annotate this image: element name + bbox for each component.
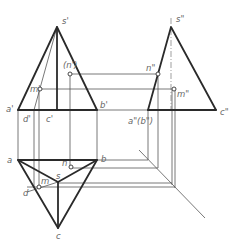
point-m-side xyxy=(172,87,176,91)
label-a-top: a xyxy=(7,155,12,165)
label-b-front: b' xyxy=(100,100,108,110)
label-c-top: c xyxy=(56,231,61,241)
point-n-side xyxy=(156,72,160,76)
label-s-front: s' xyxy=(62,16,69,26)
label-s-top: s xyxy=(56,171,61,181)
label-d-front: d' xyxy=(23,114,31,124)
label-c-front: c' xyxy=(46,114,53,124)
projection-drawing: s' (n') m' a' b' d' c' s" n" m" c" a"(b"… xyxy=(0,0,231,245)
label-n-side: n" xyxy=(146,63,155,73)
point-n-top xyxy=(69,165,73,169)
label-m-front: m' xyxy=(30,84,41,94)
point-n-front xyxy=(68,72,72,76)
labels: s' (n') m' a' b' d' c' s" n" m" c" a"(b"… xyxy=(6,14,229,241)
label-d-top: d xyxy=(23,188,29,198)
front-view xyxy=(18,27,97,110)
label-m-side: m" xyxy=(177,89,189,99)
label-a-front: a' xyxy=(6,104,14,114)
label-n-front: (n') xyxy=(63,60,77,70)
label-c-side: c" xyxy=(220,107,229,117)
label-n-top: n xyxy=(62,158,67,168)
label-ab-side: a"(b") xyxy=(128,116,153,126)
label-s-side: s" xyxy=(176,14,184,24)
label-m-top: m xyxy=(41,176,49,186)
label-b-top: b xyxy=(101,154,106,164)
